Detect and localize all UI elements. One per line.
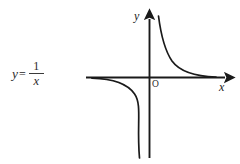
curve-branch-quadrant-one (159, 16, 217, 77)
hyperbola-plot (0, 0, 240, 164)
origin-label: O (152, 79, 159, 89)
x-axis-label: x (219, 80, 224, 95)
curve-branch-quadrant-three (92, 78, 140, 158)
function-graph-figure: y = 1 x y x O (0, 0, 240, 164)
y-axis-label: y (134, 9, 139, 24)
